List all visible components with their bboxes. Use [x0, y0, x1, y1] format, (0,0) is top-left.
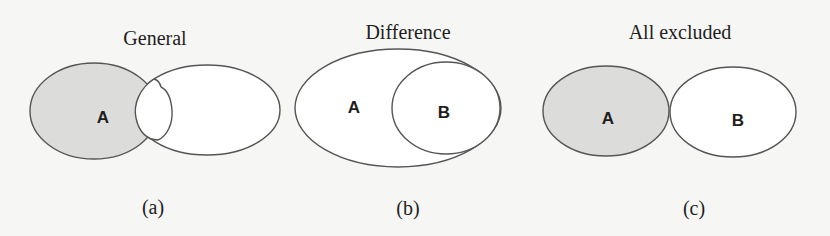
panel-c-title: All excluded: [629, 21, 732, 43]
set-b-label: B: [438, 103, 450, 122]
panel-a-general: General A (a): [30, 27, 280, 219]
panel-b-difference: Difference A B (b): [295, 21, 501, 220]
set-b-label: B: [732, 111, 744, 130]
venn-diagram-figure: General A (a) Difference A B (b) All exc…: [0, 0, 830, 236]
panel-b-title: Difference: [365, 21, 450, 43]
panel-c-caption: (c): [683, 197, 705, 220]
panel-b-caption: (b): [396, 197, 419, 220]
panel-c-all-excluded: All excluded A B (c): [543, 21, 796, 220]
set-a-label: A: [602, 109, 614, 128]
set-a-label: A: [97, 108, 109, 127]
set-a-label: A: [348, 98, 360, 117]
panel-a-title: General: [123, 27, 187, 49]
panel-a-caption: (a): [142, 196, 164, 219]
